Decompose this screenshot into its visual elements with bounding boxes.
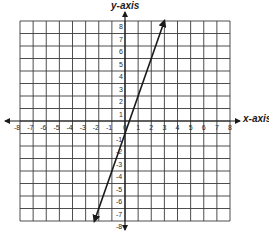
x-tick-label: -3 (80, 124, 86, 131)
x-tick-label: 7 (215, 124, 219, 131)
x-tick-label: -8 (14, 124, 20, 131)
x-tick-label: -4 (67, 124, 73, 131)
coordinate-plane (0, 0, 269, 233)
y-tick-label: -8 (116, 223, 122, 230)
y-tick-label: 6 (119, 48, 123, 55)
x-tick-label: -1 (106, 124, 112, 131)
x-tick-label: 0 (123, 124, 127, 131)
y-tick-label: -3 (116, 161, 122, 168)
y-tick-label: -2 (116, 148, 122, 155)
y-tick-label: 4 (119, 73, 123, 80)
y-tick-label: -1 (116, 136, 122, 143)
y-tick-label: -7 (116, 211, 122, 218)
x-tick-label: 4 (176, 124, 180, 131)
y-axis-title: y-axis (111, 0, 139, 11)
x-tick-label: 5 (189, 124, 193, 131)
y-tick-label: 3 (119, 86, 123, 93)
y-tick-label: -6 (116, 198, 122, 205)
x-tick-label: 3 (162, 124, 166, 131)
y-tick-label: 8 (119, 23, 123, 30)
x-tick-label: 1 (136, 124, 140, 131)
axes (5, 12, 240, 230)
y-tick-label: 2 (119, 98, 123, 105)
x-tick-label: 2 (149, 124, 153, 131)
y-tick-label: 1 (119, 111, 123, 118)
x-tick-label: 8 (228, 124, 232, 131)
x-tick-label: -6 (40, 124, 46, 131)
x-tick-label: -7 (27, 124, 33, 131)
x-axis-title: x-axis (243, 113, 269, 124)
y-tick-label: -4 (116, 173, 122, 180)
y-tick-label: -5 (116, 186, 122, 193)
y-tick-label: 7 (119, 36, 123, 43)
y-tick-label: 5 (119, 61, 123, 68)
x-tick-label: -2 (93, 124, 99, 131)
x-tick-label: 6 (202, 124, 206, 131)
x-tick-label: -5 (53, 124, 59, 131)
